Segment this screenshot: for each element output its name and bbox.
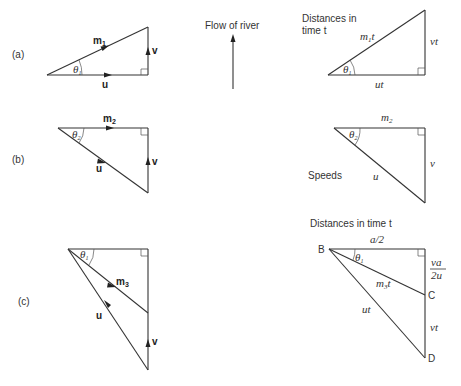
distances-title-line2: time t — [302, 25, 327, 36]
label-u-speed: u — [373, 170, 379, 182]
label-m2: m2 — [103, 113, 116, 125]
arrow-m2-icon — [106, 126, 114, 131]
label-m3t: m3t — [376, 277, 391, 291]
arrow-v-icon — [146, 157, 151, 165]
panel-c-distance-triangle — [329, 249, 425, 358]
point-c-label: C — [428, 290, 435, 301]
label-theta1-c: θ1 — [80, 248, 88, 261]
label-vt-c: vt — [430, 321, 439, 333]
panel-c-velocity-triangle — [68, 249, 151, 370]
point-b-label: B — [318, 244, 325, 255]
panel-b-label: (b) — [12, 154, 24, 165]
label-m1: m1 — [93, 35, 106, 47]
arrow-u-icon — [104, 73, 112, 78]
arrow-v-icon — [146, 47, 151, 55]
svg-text:va: va — [431, 256, 442, 268]
label-ut-c: ut — [362, 303, 372, 315]
label-theta1-dist: θ1 — [343, 63, 351, 76]
label-theta2-speed: θ2 — [349, 128, 357, 141]
label-theta1-dist-c: θ1 — [355, 251, 363, 264]
flow-arrow-icon — [231, 34, 236, 89]
flow-of-river-label: Flow of river — [205, 20, 260, 31]
label-ut: ut — [375, 78, 385, 90]
distances-in-time-title: Distances in time t — [310, 218, 392, 229]
panel-c-label: (c) — [18, 296, 30, 307]
label-v-speed: v — [430, 157, 435, 169]
river-crossing-diagram: Flow of river (a) m1 v u θ1 Distances in… — [0, 0, 461, 386]
label-v: v — [152, 45, 158, 56]
label-theta1: θ1 — [73, 63, 81, 76]
panel-a-label: (a) — [12, 49, 24, 60]
fraction-va-over-2u: va 2u — [430, 256, 446, 281]
label-theta2: θ2 — [72, 128, 80, 141]
label-u: u — [96, 163, 102, 174]
arrow-u-icon — [104, 300, 111, 308]
svg-text:2u: 2u — [431, 269, 443, 281]
label-v: v — [152, 156, 158, 167]
distances-title-line1: Distances in — [302, 13, 356, 24]
point-d-label: D — [428, 353, 435, 364]
label-u: u — [102, 79, 108, 90]
label-m1t: m1t — [360, 30, 375, 44]
label-a-over-2: a/2 — [370, 233, 385, 245]
panel-b-speed-triangle — [334, 128, 425, 203]
label-vt: vt — [430, 35, 439, 47]
arrow-v-icon — [146, 339, 151, 347]
speeds-title: Speeds — [308, 170, 342, 181]
label-u: u — [96, 310, 102, 321]
label-m2-speed: m2 — [381, 111, 393, 125]
label-m3: m3 — [116, 276, 129, 288]
label-v: v — [152, 336, 158, 347]
